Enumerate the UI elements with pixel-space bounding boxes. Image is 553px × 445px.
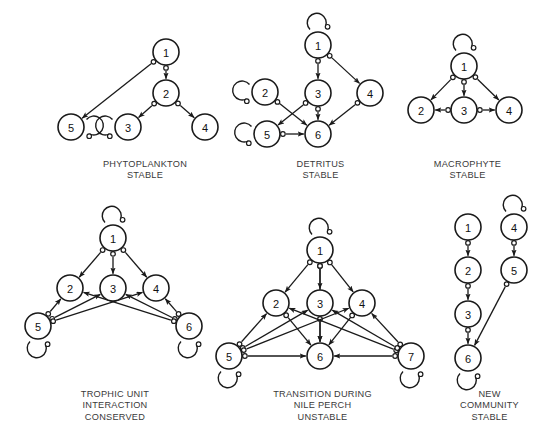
self-loop-arc	[307, 13, 326, 29]
node-trophic-unit-1[interactable]: 1	[100, 225, 126, 251]
node-trophic-unit-6[interactable]: 6	[176, 313, 202, 339]
node-macrophyte-3[interactable]: 3	[451, 97, 477, 123]
self-loop-arc	[309, 218, 328, 234]
edge-source-circle	[466, 284, 471, 289]
edge-nile-perch-7-6	[334, 354, 397, 359]
self-loop-new-community-6	[457, 374, 480, 390]
node-nile-perch-4[interactable]: 4	[349, 290, 375, 316]
node-label: 4	[359, 298, 365, 310]
edge-source-circle	[281, 132, 286, 137]
self-loop-arc	[233, 81, 250, 100]
node-trophic-unit-5[interactable]: 5	[25, 313, 51, 339]
node-phytoplankton-5[interactable]: 5	[58, 114, 84, 140]
node-label: 2	[163, 88, 169, 100]
edge-trophic-unit-1-4	[121, 248, 147, 277]
node-phytoplankton-1[interactable]: 1	[153, 39, 179, 65]
node-new-community-6[interactable]: 6	[455, 345, 481, 371]
self-loop-circle	[236, 372, 241, 377]
node-detritus-6[interactable]: 6	[305, 121, 331, 147]
self-loop-phytoplankton-5	[87, 116, 104, 138]
node-detritus-2[interactable]: 2	[252, 79, 278, 105]
edge-new-community-1-2	[466, 241, 471, 256]
node-new-community-4[interactable]: 4	[501, 214, 527, 240]
node-label: 2	[465, 265, 471, 277]
self-loop-arc	[178, 342, 197, 358]
caption-phytoplankton: PHYTOPLANKTON STABLE	[65, 159, 225, 182]
edge-detritus-4-6	[329, 101, 360, 126]
edge-source-circle	[316, 107, 321, 112]
self-loop-trophic-unit-1	[102, 206, 125, 222]
node-detritus-3[interactable]: 3	[305, 80, 331, 106]
node-new-community-2[interactable]: 2	[455, 257, 481, 283]
node-detritus-5[interactable]: 5	[254, 121, 280, 147]
node-label: 1	[461, 61, 467, 73]
self-loop-detritus-1	[307, 13, 330, 29]
node-nile-perch-7[interactable]: 7	[398, 343, 424, 369]
node-label: 4	[506, 105, 512, 117]
edge-detritus-5-6	[281, 132, 304, 137]
node-label: 4	[202, 122, 208, 134]
self-loop-circle	[196, 342, 201, 347]
edge-line	[139, 106, 152, 118]
nodes-layer: 1253412345612341234561234567142536	[25, 32, 527, 371]
node-macrophyte-4[interactable]: 4	[496, 97, 522, 123]
self-loop-circle	[521, 207, 526, 212]
edge-source-circle	[446, 108, 451, 113]
node-phytoplankton-2[interactable]: 2	[153, 80, 179, 106]
node-nile-perch-1[interactable]: 1	[307, 237, 333, 263]
edge-line	[82, 64, 151, 118]
node-macrophyte-1[interactable]: 1	[451, 53, 477, 79]
edge-new-community-4-5	[512, 241, 517, 256]
node-phytoplankton-3[interactable]: 3	[115, 114, 141, 140]
self-loop-arc	[453, 34, 472, 50]
node-phytoplankton-4[interactable]: 4	[192, 114, 218, 140]
edge-source-circle	[316, 59, 321, 64]
node-trophic-unit-2[interactable]: 2	[57, 275, 83, 301]
edge-line	[478, 79, 499, 100]
node-label: 5	[511, 265, 517, 277]
self-loop-circle	[120, 218, 125, 223]
edge-trophic-unit-1-2	[79, 248, 105, 277]
node-label: 5	[68, 122, 74, 134]
node-detritus-4[interactable]: 4	[357, 80, 383, 106]
node-nile-perch-3[interactable]: 3	[307, 290, 333, 316]
self-loop-nile-perch-7	[400, 372, 423, 388]
self-loop-new-community-4	[503, 195, 526, 211]
node-trophic-unit-4[interactable]: 4	[143, 275, 169, 301]
edge-source-circle	[462, 80, 467, 85]
node-label: 3	[461, 105, 467, 117]
node-detritus-1[interactable]: 1	[305, 32, 331, 58]
node-label: 4	[367, 88, 373, 100]
node-label: 1	[465, 222, 471, 234]
self-loop-circle	[418, 372, 423, 377]
self-loop-circle	[471, 46, 476, 51]
node-trophic-unit-3[interactable]: 3	[100, 275, 126, 301]
node-label: 3	[110, 283, 116, 295]
node-new-community-1[interactable]: 1	[455, 214, 481, 240]
edge-detritus-2-6	[275, 100, 307, 126]
node-new-community-5[interactable]: 5	[501, 257, 527, 283]
edge-nile-perch-5-4	[241, 308, 348, 352]
edge-line	[280, 104, 307, 125]
edge-phytoplankton-2-4	[176, 101, 195, 118]
edge-nile-perch-7-2	[289, 308, 398, 352]
network-diagram-svg: 1253412345612341234561234567142536	[0, 0, 553, 445]
edge-macrophyte-3-2	[435, 108, 450, 113]
node-nile-perch-2[interactable]: 2	[263, 290, 289, 316]
caption-nile-perch: TRANSITION DURING NILE PERCH UNSTABLE	[240, 389, 405, 423]
edge-nile-perch-5-2	[237, 314, 266, 347]
node-nile-perch-6[interactable]: 6	[307, 343, 333, 369]
node-label: 2	[273, 298, 279, 310]
node-label: 5	[35, 321, 41, 333]
node-nile-perch-5[interactable]: 5	[216, 343, 242, 369]
self-loop-detritus-5	[235, 123, 252, 145]
edge-source-circle	[512, 241, 517, 246]
self-loop-nile-perch-5	[218, 372, 241, 388]
caption-macrophyte: MACROPHYTE STABLE	[405, 159, 530, 182]
edge-phytoplankton-1-2	[164, 66, 169, 79]
node-macrophyte-2[interactable]: 2	[408, 97, 434, 123]
edge-line	[372, 313, 398, 342]
edge-line	[180, 105, 194, 117]
edge-source-circle	[51, 319, 56, 324]
node-new-community-3[interactable]: 3	[455, 301, 481, 327]
